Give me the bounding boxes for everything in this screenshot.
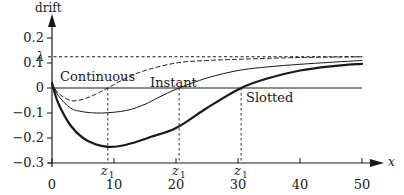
z1-label: z bbox=[233, 163, 241, 178]
y-tick-label: −0.2 bbox=[12, 130, 44, 145]
z1-label: z bbox=[171, 163, 179, 178]
instant-label: Instant bbox=[150, 75, 198, 90]
y-axis-title: drift bbox=[35, 1, 62, 15]
slotted-label: Slotted bbox=[246, 90, 293, 105]
x-tick-label: 30 bbox=[230, 177, 247, 192]
tick-labels: 0.20.10−0.1−0.2−0.301020304050 bbox=[12, 30, 370, 192]
y-tick-label: 0.2 bbox=[23, 30, 44, 45]
drift-chart: drift x λ Continuous Instant Slotted z1z… bbox=[0, 0, 404, 195]
x-tick-label: 20 bbox=[168, 177, 185, 192]
continuous-label: Continuous bbox=[60, 69, 135, 84]
y-tick-label: 0 bbox=[36, 80, 44, 95]
x-tick-label: 50 bbox=[354, 177, 371, 192]
x-tick-label: 0 bbox=[48, 177, 56, 192]
z1-label: z bbox=[100, 163, 108, 178]
x-axis-arrow-icon bbox=[370, 159, 384, 167]
y-tick-label: 0.1 bbox=[23, 55, 44, 70]
y-tick-label: −0.3 bbox=[12, 155, 44, 170]
x-axis-title: x bbox=[388, 155, 395, 169]
x-tick-label: 10 bbox=[106, 177, 123, 192]
y-tick-label: −0.1 bbox=[12, 105, 44, 120]
x-tick-label: 40 bbox=[292, 177, 309, 192]
y-axis-arrow-icon bbox=[48, 14, 56, 27]
